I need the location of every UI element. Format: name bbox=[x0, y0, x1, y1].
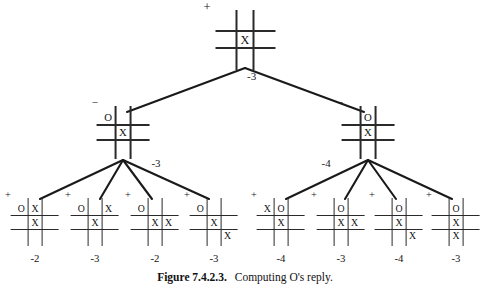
node-sign-label: + bbox=[426, 190, 432, 200]
node-sign-label: + bbox=[369, 190, 375, 200]
tictactoe-board: OXX bbox=[135, 202, 176, 243]
board-mark-o-r1c2: O bbox=[274, 204, 288, 214]
board-mark-o-r1c2: O bbox=[449, 204, 463, 214]
board-mark-x-r2c3: X bbox=[162, 218, 176, 228]
board-horizontal-line bbox=[71, 215, 119, 216]
board-mark-x-r2c2: X bbox=[361, 127, 376, 138]
tictactoe-board: X bbox=[220, 14, 271, 65]
tictactoe-board: OXX bbox=[379, 202, 420, 243]
figure-caption: Figure 7.4.2.3. Computing O's reply. bbox=[0, 271, 490, 283]
tictactoe-board: OXX bbox=[321, 202, 362, 243]
board-horizontal-line bbox=[342, 139, 395, 140]
tree-edge bbox=[245, 68, 364, 112]
node-sign-label: − bbox=[337, 97, 343, 108]
node-sign-label: + bbox=[251, 190, 257, 200]
node-sign-label: − bbox=[92, 97, 98, 108]
board-mark-o-r1c1: O bbox=[135, 204, 149, 214]
figure-container: X+-3OX−-3OX−-4OXX+-2OXX+-3OXX+-2OXX+-3XO… bbox=[0, 0, 490, 292]
node-value-label: -3 bbox=[202, 253, 226, 264]
tictactoe-board: OXX bbox=[194, 202, 235, 243]
node-sign-label: + bbox=[184, 190, 190, 200]
tictactoe-board: OX bbox=[101, 110, 146, 155]
board-horizontal-line bbox=[131, 215, 179, 216]
board-mark-x-r1c3: X bbox=[102, 204, 116, 214]
board-mark-x-r2c2: X bbox=[237, 34, 254, 46]
board-mark-o-r1c1: O bbox=[15, 204, 29, 214]
node-value-label: -3 bbox=[247, 71, 256, 82]
board-grid: X bbox=[220, 14, 271, 65]
board-grid: OXX bbox=[15, 202, 56, 243]
board-mark-x-r2c2: X bbox=[449, 218, 463, 228]
board-mark-o-r1c1: O bbox=[75, 204, 89, 214]
node-sign-label: + bbox=[5, 190, 11, 200]
board-mark-x-r3c3: X bbox=[406, 231, 420, 241]
node-value-label: -3 bbox=[329, 253, 353, 264]
node-sign-label: + bbox=[204, 1, 211, 14]
board-mark-x-r1c2: X bbox=[28, 204, 42, 214]
figure-caption-text: Computing O's reply. bbox=[235, 271, 333, 283]
node-value-label: -3 bbox=[151, 158, 160, 169]
board-mark-o-r1c2: O bbox=[361, 112, 376, 123]
board-horizontal-line bbox=[215, 47, 275, 48]
tree-edge bbox=[127, 68, 245, 112]
board-horizontal-line bbox=[317, 215, 365, 216]
board-grid: OXX bbox=[194, 202, 235, 243]
tree-edge bbox=[40, 160, 123, 199]
tictactoe-board: OXX bbox=[436, 202, 477, 243]
board-grid: OX bbox=[346, 110, 391, 155]
board-horizontal-line bbox=[71, 229, 119, 230]
board-horizontal-line bbox=[257, 229, 305, 230]
board-mark-x-r2c3: X bbox=[348, 218, 362, 228]
board-horizontal-line bbox=[131, 229, 179, 230]
board-horizontal-line bbox=[190, 215, 238, 216]
node-value-label: -2 bbox=[143, 253, 167, 264]
board-mark-o-r1c2: O bbox=[334, 204, 348, 214]
board-mark-x-r2c2: X bbox=[28, 218, 42, 228]
board-horizontal-line bbox=[375, 215, 423, 216]
board-horizontal-line bbox=[11, 215, 59, 216]
board-horizontal-line bbox=[432, 215, 480, 216]
board-mark-x-r2c2: X bbox=[207, 218, 221, 228]
board-horizontal-line bbox=[257, 215, 305, 216]
board-grid: OXX bbox=[436, 202, 477, 243]
board-mark-x-r2c2: X bbox=[274, 218, 288, 228]
board-horizontal-line bbox=[215, 30, 275, 31]
board-mark-x-r2c2: X bbox=[334, 218, 348, 228]
node-value-label: -4 bbox=[322, 158, 331, 169]
node-value-label: -2 bbox=[23, 253, 47, 264]
node-sign-label: + bbox=[65, 190, 71, 200]
board-mark-x-r2c2: X bbox=[148, 218, 162, 228]
tictactoe-board: OXX bbox=[75, 202, 116, 243]
board-mark-o-r1c1: O bbox=[194, 204, 208, 214]
board-mark-x-r2c2: X bbox=[116, 127, 131, 138]
board-grid: OXX bbox=[75, 202, 116, 243]
board-grid: OXX bbox=[135, 202, 176, 243]
node-sign-label: + bbox=[311, 190, 317, 200]
board-mark-x-r3c2: X bbox=[449, 231, 463, 241]
board-mark-o-r1c1: O bbox=[101, 112, 116, 123]
board-grid: OXX bbox=[321, 202, 362, 243]
tree-edge bbox=[123, 160, 209, 199]
tictactoe-board: XOX bbox=[261, 202, 302, 243]
board-grid: XOX bbox=[261, 202, 302, 243]
tictactoe-board: OXX bbox=[15, 202, 56, 243]
figure-caption-label: Figure 7.4.2.3. bbox=[157, 271, 227, 283]
node-value-label: -3 bbox=[444, 253, 468, 264]
node-value-label: -3 bbox=[83, 253, 107, 264]
board-mark-x-r2c2: X bbox=[88, 218, 102, 228]
tictactoe-board: OX bbox=[346, 110, 391, 155]
tree-edge bbox=[345, 160, 368, 199]
board-mark-x-r3c3: X bbox=[221, 231, 235, 241]
board-mark-o-r1c2: O bbox=[392, 204, 406, 214]
tree-edge bbox=[368, 160, 452, 199]
node-sign-label: + bbox=[125, 190, 131, 200]
node-value-label: -4 bbox=[269, 253, 293, 264]
board-grid: OX bbox=[101, 110, 146, 155]
board-mark-x-r1c1: X bbox=[261, 204, 275, 214]
board-grid: OXX bbox=[379, 202, 420, 243]
board-mark-x-r2c2: X bbox=[392, 218, 406, 228]
board-horizontal-line bbox=[11, 229, 59, 230]
board-horizontal-line bbox=[97, 139, 150, 140]
node-value-label: -4 bbox=[387, 253, 411, 264]
board-horizontal-line bbox=[317, 229, 365, 230]
